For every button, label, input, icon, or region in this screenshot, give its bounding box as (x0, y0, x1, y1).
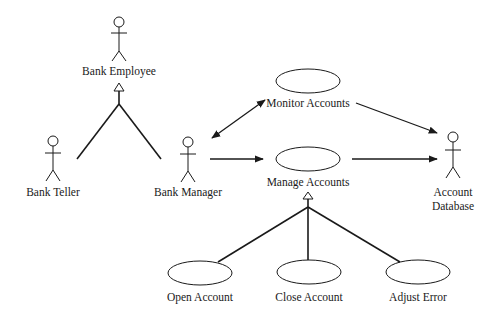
use-case-label-monitor-accounts: Monitor Accounts (266, 96, 349, 110)
use-case-label-manage-accounts: Manage Accounts (267, 175, 350, 189)
actor-account-database-figure (445, 132, 461, 178)
association-manager-monitor (212, 100, 265, 138)
use-case-label-adjust-error: Adjust Error (389, 290, 447, 304)
actor-label-bank-employee: Bank Employee (82, 64, 156, 78)
actor-label-bank-manager: Bank Manager (154, 185, 222, 199)
generalization-employee (77, 83, 161, 159)
use-case-monitor-accounts-shape (276, 69, 340, 93)
actor-bank-employee-figure (111, 17, 127, 61)
actor-label-account-database-line2: Database (432, 199, 474, 213)
use-case-close-account-shape (277, 260, 341, 284)
use-case-open-account-shape (168, 261, 232, 285)
diagram-graphics (0, 0, 499, 318)
use-case-manage-accounts-shape (276, 147, 340, 171)
actor-label-account-database-line1: Account (434, 185, 473, 199)
actor-bank-manager-figure (180, 137, 196, 182)
use-case-label-open-account: Open Account (167, 290, 233, 304)
generalization-manage-accounts (218, 192, 400, 262)
association-monitor-database (356, 103, 437, 133)
use-case-adjust-error-shape (386, 260, 450, 284)
use-case-diagram: Bank Employee Bank Teller Bank Manager A… (0, 0, 499, 318)
actor-label-bank-teller: Bank Teller (26, 185, 80, 199)
use-case-label-close-account: Close Account (275, 290, 342, 304)
actor-bank-teller-figure (45, 136, 61, 181)
